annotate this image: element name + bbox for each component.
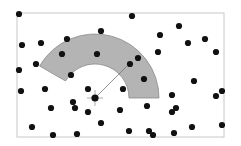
data-point bbox=[135, 55, 141, 61]
data-point bbox=[85, 109, 91, 115]
data-point bbox=[59, 51, 65, 57]
data-point bbox=[157, 32, 163, 38]
data-point bbox=[19, 42, 25, 48]
data-point bbox=[219, 88, 225, 94]
data-point bbox=[169, 92, 175, 98]
data-point bbox=[213, 93, 219, 99]
data-point bbox=[50, 132, 56, 138]
data-point bbox=[171, 130, 177, 136]
data-point bbox=[72, 105, 78, 111]
annulus-sector bbox=[40, 34, 159, 98]
radius-line bbox=[95, 64, 129, 98]
data-point bbox=[16, 67, 22, 73]
data-point bbox=[42, 86, 48, 92]
data-point bbox=[141, 76, 147, 82]
data-point bbox=[117, 107, 123, 113]
data-point bbox=[68, 72, 74, 78]
data-point bbox=[202, 36, 208, 42]
data-point bbox=[94, 51, 100, 57]
data-point bbox=[129, 13, 135, 19]
data-point bbox=[126, 128, 132, 134]
data-point bbox=[219, 122, 225, 128]
data-point bbox=[98, 120, 104, 126]
data-point bbox=[127, 61, 133, 67]
data-point bbox=[64, 36, 70, 42]
data-point bbox=[189, 124, 195, 130]
data-point bbox=[191, 78, 197, 84]
data-point bbox=[18, 88, 24, 94]
data-point bbox=[120, 86, 126, 92]
data-point bbox=[176, 23, 182, 29]
data-point bbox=[213, 49, 219, 55]
data-point bbox=[33, 61, 39, 67]
data-point bbox=[48, 105, 54, 111]
data-point bbox=[16, 11, 22, 17]
data-point bbox=[98, 28, 104, 34]
data-point bbox=[155, 49, 161, 55]
data-point bbox=[29, 124, 35, 130]
data-point bbox=[169, 109, 175, 115]
data-point bbox=[150, 132, 156, 138]
data-point bbox=[185, 40, 191, 46]
data-point bbox=[144, 103, 150, 109]
data-point bbox=[74, 131, 80, 137]
data-point bbox=[38, 40, 44, 46]
focal-data-point bbox=[91, 94, 98, 101]
data-point bbox=[85, 86, 91, 92]
data-point bbox=[70, 99, 76, 105]
point-pattern-diagram bbox=[0, 0, 241, 146]
